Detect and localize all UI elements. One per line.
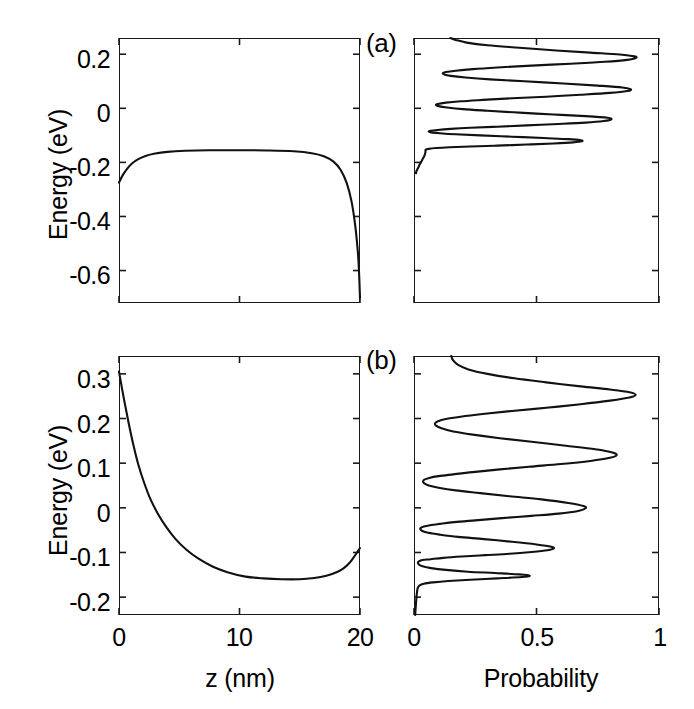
panel-b-potential-canvas [119, 356, 360, 615]
panel-a-ytick-0: 0.2 [30, 45, 110, 74]
panel-a-ytick-1: 0 [30, 99, 110, 128]
panel-b-prob-xtick-0: 0 [394, 623, 434, 652]
panel-a-ytick-3: -0.4 [22, 207, 110, 236]
panel-b-potential-plot [119, 356, 360, 615]
panel-a-probability-plot [414, 38, 659, 303]
panel-b-ytick-5: -0.2 [14, 588, 110, 617]
panel-a-potential-plot [119, 38, 360, 303]
panel-b-ylabel-energy: Energy (eV) [44, 425, 73, 556]
panel-a-potential-curve [119, 150, 360, 297]
panel-b-probability-curve [415, 356, 635, 615]
panel-b-prob-xtick-2: 1 [640, 623, 680, 652]
panel-a-ytick-2: -0.2 [22, 153, 110, 182]
panel-a-potential-ticks [119, 38, 360, 303]
figure-root: Energy (eV) 0.2 0 -0.2 -0.4 -0.6 (a) Ene… [0, 0, 694, 709]
panel-a-probability-curve [416, 38, 637, 173]
panel-b-xlabel-probability: Probability [451, 664, 631, 693]
panel-b-xtick-2: 20 [331, 623, 389, 652]
panel-b-probability-canvas [414, 356, 659, 615]
panel-b-potential-curve [119, 372, 360, 580]
panel-b-probability-plot [414, 356, 659, 615]
panel-b-ytick-3: 0 [22, 499, 110, 528]
panel-b-xtick-1: 10 [210, 623, 268, 652]
panel-b-probability-ticks [414, 356, 659, 615]
panel-b-ytick-1: 0.2 [22, 410, 110, 439]
panel-a-ytick-4: -0.6 [22, 261, 110, 290]
panel-a-probability-ticks [414, 38, 659, 303]
panel-b-xlabel-z: z (nm) [170, 664, 310, 693]
panel-b-xtick-0: 0 [99, 623, 139, 652]
panel-b-ytick-4: -0.1 [14, 543, 110, 572]
panel-a-probability-canvas [414, 38, 659, 303]
panel-a-potential-canvas [119, 38, 360, 303]
panel-b-ytick-0: 0.3 [22, 365, 110, 394]
panel-label-a: (a) [366, 28, 397, 59]
panel-b-ytick-2: 0.1 [22, 454, 110, 483]
panel-b-prob-xtick-1: 0.5 [502, 623, 572, 652]
panel-label-b: (b) [366, 345, 397, 376]
